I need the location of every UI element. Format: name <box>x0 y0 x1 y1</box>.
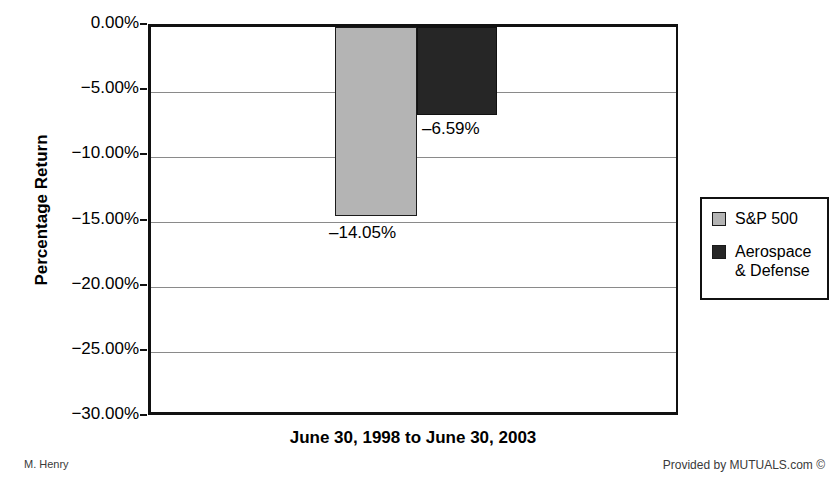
bar-label-aerospace-defense: –6.59% <box>422 119 480 139</box>
legend-item-aerospace-defense[interactable]: Aerospace & Defense <box>712 242 827 280</box>
y-axis-tick-label: −15.00% <box>19 209 139 229</box>
y-axis-tick <box>140 349 147 351</box>
legend-label-aerospace-defense: Aerospace & Defense <box>735 242 812 280</box>
y-axis-tick <box>140 88 147 90</box>
gridline <box>151 352 676 353</box>
legend-label-sp500: S&P 500 <box>735 209 798 228</box>
chart-canvas: Percentage Return 0.00%−5.00%−10.00%−15.… <box>0 0 839 493</box>
y-axis-tick-label: −20.00% <box>19 274 139 294</box>
y-axis-tick-label: −10.00% <box>19 143 139 163</box>
y-axis-tick <box>140 284 147 286</box>
y-axis-tick-label: −5.00% <box>19 78 139 98</box>
gridline <box>151 222 676 223</box>
y-axis-tick <box>140 414 147 416</box>
y-axis-tick-label: 0.00% <box>19 13 139 33</box>
bar-sp500[interactable] <box>335 27 417 216</box>
gridline <box>151 287 676 288</box>
y-axis-tick <box>140 219 147 221</box>
legend: S&P 500 Aerospace & Defense <box>700 197 829 300</box>
y-axis-tick <box>140 153 147 155</box>
legend-swatch-aerospace-defense-icon <box>712 245 726 259</box>
bar-aerospace-defense[interactable] <box>417 27 497 115</box>
bar-label-sp500: –14.05% <box>329 223 396 243</box>
y-axis-tick <box>140 23 147 25</box>
y-axis-tick-label: −30.00% <box>19 404 139 424</box>
author-credit: M. Henry <box>24 458 69 470</box>
y-axis-tick-label: −25.00% <box>19 339 139 359</box>
legend-swatch-sp500-icon <box>712 212 726 226</box>
legend-item-sp500[interactable]: S&P 500 <box>712 209 827 228</box>
plot-area: –14.05% –6.59% <box>148 24 678 415</box>
x-axis-caption: June 30, 1998 to June 30, 2003 <box>148 428 678 448</box>
provider-credit: Provided by MUTUALS.com © <box>663 458 825 472</box>
